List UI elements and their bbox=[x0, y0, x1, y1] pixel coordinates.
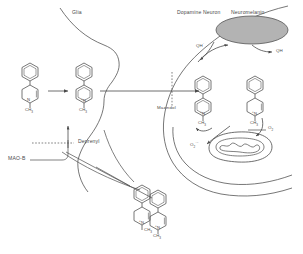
qh-radical-text: QH bbox=[196, 43, 203, 48]
label-mao-b: MAO-B bbox=[8, 156, 25, 161]
qh-radical-dot: · bbox=[203, 42, 204, 46]
mpdp-glia-nitrogen: +N bbox=[81, 98, 86, 104]
label-mazindol: Mazindol bbox=[157, 106, 176, 110]
mpp-lower-left-methyl: CH3 bbox=[153, 234, 161, 240]
mpp-neuron-left-nitrogen: +N bbox=[200, 111, 205, 117]
o2-subscript: 2 bbox=[272, 128, 274, 132]
label-o2: O2 bbox=[268, 126, 273, 132]
label-dopamine-neuron: Dopamine Neuron bbox=[177, 10, 221, 15]
mpp-neuron-left-n-text: N bbox=[202, 111, 205, 116]
mpp-neuron-right-methyl-sub: 3 bbox=[256, 123, 258, 127]
mpp-lower-left-nitrogen: +N bbox=[155, 225, 160, 231]
mpp-bottom-nitrogen: +N bbox=[139, 220, 144, 226]
figure-canvas: Glia Dopamine Neuron Neuromelanin QH· QH… bbox=[0, 0, 303, 254]
mpp-bottom-methyl-sub: 3 bbox=[150, 230, 152, 234]
mpp-neuron-right-n-text: N bbox=[254, 111, 257, 116]
label-qh: QH bbox=[276, 49, 283, 53]
mpp-neuron-right-methyl: CH3 bbox=[250, 121, 258, 127]
arrow-qh-out bbox=[252, 45, 272, 52]
label-o2-radical: O2·− bbox=[190, 142, 199, 149]
label-glia: Glia bbox=[72, 10, 82, 15]
mpp-neuron-left-methyl-sub: 3 bbox=[204, 123, 206, 127]
mpp-bottom-methyl: CH3 bbox=[144, 228, 152, 234]
mpp-neuron-left-methyl: CH3 bbox=[198, 121, 206, 127]
mpdp-glia-n-text: N bbox=[83, 98, 86, 103]
mpp-lower-left-n-text: N bbox=[157, 225, 160, 230]
mpp-bottom-leader bbox=[96, 167, 130, 186]
o2-radical-superscript: ·− bbox=[195, 141, 198, 145]
mpp-neuron-right-nitrogen: +N bbox=[252, 111, 257, 117]
mpp-bottom-n-text: N bbox=[141, 220, 144, 225]
mpdp-glia-methyl-sub: 3 bbox=[85, 110, 87, 114]
mptp-glia-nitrogen: N bbox=[27, 98, 30, 102]
neuromelanin-granule bbox=[216, 16, 288, 44]
label-neuromelanin: Neuromelanin bbox=[231, 10, 265, 15]
label-deprenyl: Deprenyl bbox=[78, 139, 100, 144]
mitochondrion bbox=[209, 132, 272, 162]
mpdp-glia-methyl: CH3 bbox=[79, 108, 87, 114]
mpp-lower-left-methyl-sub: 3 bbox=[159, 236, 161, 240]
pathway-vector-layer bbox=[0, 0, 303, 254]
label-qh-radical: QH· bbox=[196, 43, 204, 49]
arrow-mpp-left-loop bbox=[196, 128, 212, 131]
mptp-glia-methyl-sub: 3 bbox=[31, 110, 33, 114]
mptp-glia-methyl: CH3 bbox=[25, 108, 33, 114]
o2-radical-subscript: 2 bbox=[194, 145, 196, 149]
